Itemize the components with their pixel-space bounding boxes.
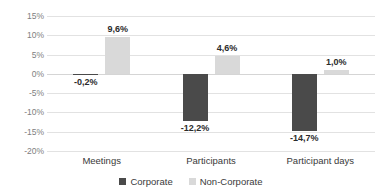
bar-value-label-corporate-1: -0,2% <box>74 77 98 87</box>
bar-value-label-corporate-2: -12,2% <box>181 123 210 133</box>
gridline--20 <box>47 151 375 152</box>
legend-swatch-non-corporate <box>189 178 196 185</box>
bar-corporate-3[interactable] <box>292 74 317 131</box>
bar-value-label-non-corporate-3: 1,0% <box>326 57 347 67</box>
bar-corporate-1[interactable] <box>73 74 98 76</box>
gridline-5 <box>47 55 375 56</box>
bar-non-corporate-2[interactable] <box>215 56 240 74</box>
bar-value-label-non-corporate-1: 9,6% <box>107 24 128 34</box>
gridline--15 <box>47 132 375 133</box>
x-axis-label-2: Participants <box>186 155 236 166</box>
y-axis-tick-5: 5% <box>0 50 44 60</box>
y-axis-tick--10: -10% <box>0 107 44 117</box>
y-axis-tick--20: -20% <box>0 146 44 156</box>
y-axis-tick-0: 0% <box>0 69 44 79</box>
legend-label-non-corporate: Non-Corporate <box>200 176 263 187</box>
y-axis-tick-15: 15% <box>0 11 44 21</box>
y-axis-tick-10: 10% <box>0 30 44 40</box>
bar-value-label-non-corporate-2: 4,6% <box>217 43 238 53</box>
x-axis-labels: MeetingsParticipantsParticipant days <box>47 155 375 171</box>
legend-item-corporate[interactable]: Corporate <box>119 176 172 187</box>
x-axis-label-1: Meetings <box>82 155 121 166</box>
y-axis-tick--5: -5% <box>0 88 44 98</box>
gridline--5 <box>47 93 375 94</box>
bar-chart: 15%10%5%0%-5%-10%-15%-20% -0,2%9,6%-12,2… <box>0 0 382 194</box>
x-axis-label-3: Participant days <box>287 155 355 166</box>
chart-legend: Corporate Non-Corporate <box>0 172 382 190</box>
y-axis-tick--15: -15% <box>0 127 44 137</box>
y-axis-labels: 15%10%5%0%-5%-10%-15%-20% <box>0 16 44 151</box>
gridline-10 <box>47 35 375 36</box>
gridline-15 <box>47 16 375 17</box>
bar-corporate-2[interactable] <box>183 74 208 121</box>
legend-label-corporate: Corporate <box>130 176 172 187</box>
legend-item-non-corporate[interactable]: Non-Corporate <box>189 176 263 187</box>
bar-non-corporate-3[interactable] <box>324 70 349 74</box>
bar-value-label-corporate-3: -14,7% <box>290 133 319 143</box>
plot-area: -0,2%9,6%-12,2%4,6%-14,7%1,0% <box>47 16 375 151</box>
gridline--10 <box>47 112 375 113</box>
legend-swatch-corporate <box>119 178 126 185</box>
bar-non-corporate-1[interactable] <box>105 37 130 74</box>
